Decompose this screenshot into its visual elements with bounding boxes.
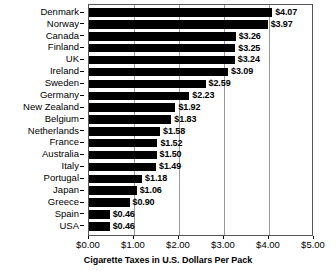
bar-row: $3.24 <box>89 55 312 66</box>
bar-row: $1.50 <box>89 150 312 161</box>
x-tick-label: $1.00 <box>121 239 145 251</box>
category-tick-mark <box>80 12 84 13</box>
category-label: New Zealand <box>23 101 79 112</box>
category-tick-mark <box>80 83 84 84</box>
category-tick-mark <box>80 166 84 167</box>
category-label: Spain <box>55 208 79 219</box>
bar-row: $3.25 <box>89 43 312 54</box>
category-tick-mark <box>80 23 84 24</box>
category-tick-mark <box>80 142 84 143</box>
bar-row: $1.18 <box>89 174 312 185</box>
x-axis-title: Cigarette Taxes in U.S. Dollars Per Pack <box>0 255 336 265</box>
category-tick-mark <box>80 130 84 131</box>
category-tick-mark <box>80 213 84 214</box>
bar-row: $1.52 <box>89 138 312 149</box>
category-label: Denmark <box>40 6 79 17</box>
category-label: Italy <box>62 160 79 171</box>
bar-row: $3.97 <box>89 19 312 30</box>
bar <box>89 44 235 52</box>
category-label: Germany <box>40 89 79 100</box>
bar <box>89 68 228 76</box>
category-label: Finland <box>48 41 79 52</box>
category-label: France <box>49 136 79 147</box>
bar-value-label: $1.92 <box>178 102 200 113</box>
bar-value-label: $1.52 <box>160 138 182 149</box>
bar-row: $0.90 <box>89 197 312 208</box>
x-axis-tick-labels: $0.00$1.00$2.00$3.00$4.00$5.00 <box>0 239 336 253</box>
bar <box>89 32 236 40</box>
category-label: Australia <box>42 148 79 159</box>
bar-value-label: $3.24 <box>238 54 260 65</box>
bar-value-label: $2.59 <box>209 78 231 89</box>
x-tick-label: $2.00 <box>166 239 190 251</box>
bar-value-label: $1.49 <box>159 161 181 172</box>
bar-row: $4.07 <box>89 7 312 18</box>
bar <box>89 115 171 123</box>
bar-value-label: $3.25 <box>238 43 260 54</box>
bar <box>89 8 272 16</box>
category-label: Ireland <box>50 65 79 76</box>
category-label: Canada <box>46 30 79 41</box>
bar <box>89 151 157 159</box>
plot-area: $4.07$3.97$3.26$3.25$3.24$3.09$2.59$2.23… <box>88 4 313 236</box>
category-label: UK <box>66 53 79 64</box>
bar-value-label: $1.50 <box>160 149 182 160</box>
category-tick-mark <box>80 190 84 191</box>
bar-value-label: $1.83 <box>174 114 196 125</box>
category-label: Belgium <box>45 113 79 124</box>
bar <box>89 210 110 218</box>
bar-value-label: $3.26 <box>239 31 261 42</box>
bar-value-label: $3.09 <box>231 66 253 77</box>
bar-row: $2.23 <box>89 91 312 102</box>
category-tick-mark <box>80 47 84 48</box>
x-tick-label: $5.00 <box>301 239 325 251</box>
bar-row: $1.06 <box>89 185 312 196</box>
category-tick-mark <box>80 118 84 119</box>
bar <box>89 198 130 206</box>
bar <box>89 163 156 171</box>
category-label: Portugal <box>44 172 79 183</box>
bar <box>89 139 157 147</box>
cigarette-tax-bar-chart: DenmarkNorwayCanadaFinlandUKIrelandSwede… <box>0 0 336 271</box>
bar-row: $2.59 <box>89 79 312 90</box>
bar-value-label: $0.46 <box>113 221 135 232</box>
bar <box>89 222 110 230</box>
bar-value-label: $1.58 <box>163 126 185 137</box>
category-label: USA <box>59 220 79 231</box>
bar-rows: $4.07$3.97$3.26$3.25$3.24$3.09$2.59$2.23… <box>89 5 312 235</box>
bar-row: $3.09 <box>89 67 312 78</box>
category-tick-mark <box>80 35 84 36</box>
bar <box>89 80 206 88</box>
category-axis-labels: DenmarkNorwayCanadaFinlandUKIrelandSwede… <box>0 4 84 236</box>
category-tick-mark <box>80 202 84 203</box>
bar-value-label: $0.90 <box>133 197 155 208</box>
bar <box>89 92 189 100</box>
category-label: Netherlands <box>28 125 79 136</box>
category-tick-mark <box>80 59 84 60</box>
x-tick-label: $3.00 <box>211 239 235 251</box>
category-tick-mark <box>80 71 84 72</box>
bar <box>89 56 235 64</box>
bar <box>89 103 175 111</box>
bar-row: $1.58 <box>89 126 312 137</box>
category-tick-mark <box>80 178 84 179</box>
bar <box>89 127 160 135</box>
category-tick-mark <box>80 95 84 96</box>
bar-row: $1.83 <box>89 114 312 125</box>
category-tick-mark <box>80 225 84 226</box>
bar-value-label: $4.07 <box>275 7 297 18</box>
bar-value-label: $3.97 <box>271 19 293 30</box>
bar-value-label: $1.18 <box>145 173 167 184</box>
x-tick-label: $4.00 <box>256 239 280 251</box>
bar-value-label: $0.46 <box>113 209 135 220</box>
category-tick-mark <box>80 154 84 155</box>
category-label: Japan <box>53 184 79 195</box>
bar-value-label: $2.23 <box>192 90 214 101</box>
bar-row: $1.92 <box>89 102 312 113</box>
category-label: Greece <box>48 196 79 207</box>
bar-row: $3.26 <box>89 31 312 42</box>
category-label: Sweden <box>45 77 79 88</box>
bar <box>89 175 142 183</box>
bar <box>89 186 137 194</box>
category-tick-mark <box>80 107 84 108</box>
